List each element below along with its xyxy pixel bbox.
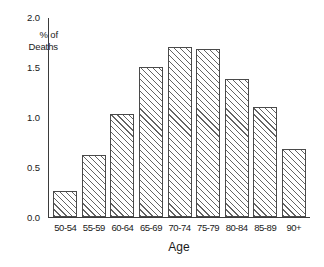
- y-tick-label-1-5: 1.5: [14, 63, 40, 73]
- bar: [139, 67, 163, 217]
- bar-cell: [222, 18, 251, 217]
- bar: [168, 47, 192, 217]
- bar: [253, 107, 277, 217]
- bar-cell: [280, 18, 309, 217]
- bar-chart-figure: % of Deaths 2.0 1.5 1.0 0.5 0.0 50-5455-…: [0, 0, 324, 267]
- bar: [110, 114, 134, 217]
- x-tick-label: 85-89: [251, 222, 280, 233]
- x-axis-line: [48, 217, 310, 218]
- bar-cell: [165, 18, 194, 217]
- bar-cell: [194, 18, 223, 217]
- bar-cell: [51, 18, 80, 217]
- bar-cell: [108, 18, 137, 217]
- y-tick-label-1-0: 1.0: [14, 113, 40, 123]
- bar-cell: [137, 18, 166, 217]
- x-axis-title: Age: [48, 240, 310, 254]
- x-tick-label: 80-84: [222, 222, 251, 233]
- x-tick-label: 55-59: [80, 222, 109, 233]
- bar: [225, 79, 249, 217]
- x-tick-label: 65-69: [137, 222, 166, 233]
- bar-cell: [80, 18, 109, 217]
- y-tick-label-0-0: 0.0: [14, 213, 40, 223]
- bar: [282, 149, 306, 217]
- bar: [196, 49, 220, 217]
- x-tick-label: 90+: [280, 222, 309, 233]
- x-tick-label: 60-64: [108, 222, 137, 233]
- bar-cell: [251, 18, 280, 217]
- x-tick-label: 70-74: [165, 222, 194, 233]
- bar: [82, 155, 106, 217]
- x-axis-tick-labels: 50-5455-5960-6465-6970-7475-7980-8485-89…: [49, 222, 310, 233]
- plot-area: [48, 18, 310, 218]
- y-tick-label-2-0: 2.0: [14, 13, 40, 23]
- bar: [53, 191, 77, 217]
- bar-series: [49, 18, 310, 217]
- y-tick-label-0-5: 0.5: [14, 163, 40, 173]
- x-tick-label: 75-79: [194, 222, 223, 233]
- x-tick-label: 50-54: [51, 222, 80, 233]
